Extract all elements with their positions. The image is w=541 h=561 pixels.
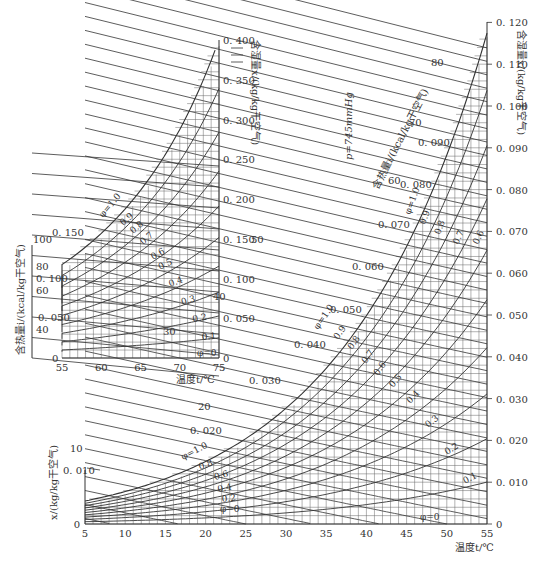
svg-text:100: 100 [33,234,52,245]
x-axis-label: 温度t/℃ [455,541,494,553]
inset-rh-label: 0.3 [180,293,197,306]
y-axis-label: x/(kg/kg干空气) [47,445,59,520]
svg-text:0. 060: 0. 060 [352,261,384,272]
svg-text:40: 40 [36,324,49,335]
x-tick-label: 10 [119,528,132,539]
rh-label: 0.6 [471,228,486,245]
inset-rh-label: 0.1 [201,331,216,342]
right-y-tick-label: 0. 050 [496,310,528,321]
right-y-tick-label: 0. 010 [496,477,528,488]
right-y-tick-label: 0. 120 [496,17,528,28]
svg-text:0. 150: 0. 150 [52,227,84,238]
svg-text:80: 80 [36,261,49,272]
inset-right-y-tick-label: 0. 100 [223,274,255,285]
x-tick-label: 25 [239,528,252,539]
right-y-tick-label: 0. 070 [496,226,528,237]
inset-x-axis-label: 温度t/℃ [176,373,215,385]
x-tick-label: 15 [159,528,172,539]
inset-right-y-tick-label: 0 [223,353,229,364]
svg-text:0. 040: 0. 040 [294,339,326,350]
rh-label: 0.2 [221,493,236,504]
rh-label: 0.7 [359,347,376,365]
inset-right-y-tick-label: 0. 200 [223,194,255,205]
inset-enthalpy-axis-label: 含热量i/(kcal/kg干空气) [14,244,26,355]
svg-text:0. 090: 0. 090 [418,137,450,148]
svg-text:0. 010: 0. 010 [63,465,95,476]
inset-rh-label: φ=0 [197,348,217,358]
inset-right-y-axis-label: 含湿量x/(kg/kg干空气) [250,40,262,145]
rh-label: φ=0 [220,504,240,514]
enthalpy-tick-label: 20 [198,401,211,412]
rh-label: 0.5 [387,372,404,390]
x-tick-label: 55 [481,528,494,539]
svg-text:60: 60 [36,285,49,296]
x-tick-label: 30 [280,528,293,539]
pressure-annotation: p=745mmHg [343,92,354,160]
enthalpy-line [85,240,487,331]
right-y-tick-label: 0. 020 [496,435,528,446]
inset-rh-label: 0.4 [167,274,184,288]
svg-text:0: 0 [74,519,80,530]
right-y-tick-label: 0 [496,519,502,530]
enthalpy-line [85,0,487,88]
x-tick-label: 35 [320,528,333,539]
svg-text:0: 0 [52,353,58,364]
inset-right-y-tick-label: 0. 050 [223,313,255,324]
svg-text:0. 030: 0. 030 [249,375,281,386]
enthalpy-line [85,0,487,48]
enthalpy-line [85,309,487,397]
rh-label: 0.1 [461,470,478,486]
right-y-tick-label: 0. 090 [496,143,528,154]
enthalpy-line [85,267,487,357]
x-tick-label: 45 [400,528,413,539]
svg-text:0. 050: 0. 050 [38,312,70,323]
rh-label: 0.4 [404,388,421,405]
main-chart: 51015202530354045505500. 0100. 0200. 030… [47,0,528,553]
svg-text:0. 020: 0. 020 [190,425,222,436]
rh-label: φ=1.0 [311,302,335,331]
right-y-tick-label: 0. 030 [496,394,528,405]
enthalpy-line [85,254,487,344]
svg-text:0. 070: 0. 070 [378,219,410,230]
inset-x-tick-label: 70 [173,362,186,373]
right-y-tick-label: 0. 040 [496,352,528,363]
enthalpy-tick-label: 10 [70,443,83,454]
rh-label: 0.8 [432,219,446,236]
x-tick-label: 5 [82,528,88,539]
enthalpy-line [85,114,487,209]
inset-right-y-tick-label: 0. 250 [223,154,255,165]
inset-right-y-tick-label: 0. 150 [223,234,255,245]
inset-x-tick-label: 65 [134,362,147,373]
rh-curve [62,50,215,288]
chart-canvas: 51015202530354045505500. 0100. 0200. 030… [0,0,541,561]
right-y-axis-label: 含湿量x/(kg/kg干空气) [516,30,528,135]
psychrometric-chart: 51015202530354045505500. 0100. 0200. 030… [0,0,541,561]
rh-label: φ=0 [420,512,440,522]
svg-text:0. 100: 0. 100 [36,273,68,284]
x-tick-label: 50 [440,528,453,539]
x-tick-label: 20 [199,528,212,539]
enthalpy-tick-label: 60 [388,175,401,186]
enthalpy-tick-label: 80 [431,57,444,68]
enthalpy-line [85,30,487,128]
right-y-tick-label: 0. 080 [496,185,528,196]
right-y-tick-label: 0. 060 [496,268,528,279]
x-tick-label: 40 [360,528,373,539]
inset-x-tick-label: 60 [95,362,108,373]
